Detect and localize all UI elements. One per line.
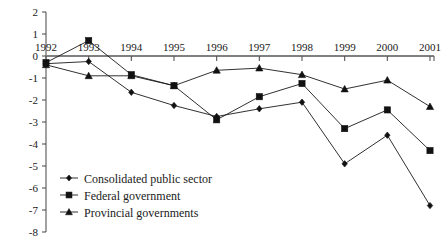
data-series [42, 61, 433, 109]
y-axis-tick-label: -2 [29, 94, 38, 106]
x-axis-tick-label: 2000 [376, 41, 399, 53]
chart-page: 210-1-2-3-4-5-6-7-8 19921993199419951996… [0, 0, 445, 248]
y-axis-tick-label: -7 [29, 204, 39, 216]
x-axis-tick-label: 1999 [334, 41, 357, 53]
series-polyline [46, 65, 430, 107]
marker-square [427, 148, 433, 154]
y-axis-tick-label: -4 [29, 138, 39, 150]
x-axis-tick-label: 1998 [291, 41, 314, 53]
marker-diamond [171, 102, 176, 108]
marker-triangle [384, 77, 391, 83]
x-axis-tick-label: 1995 [163, 41, 186, 53]
y-axis-tick-label: 2 [33, 6, 39, 18]
legend-item-label: Federal government [84, 189, 181, 203]
marker-diamond [66, 175, 71, 181]
legend-item[interactable]: Consolidated public sector [60, 172, 212, 186]
marker-triangle [256, 65, 263, 71]
marker-diamond [129, 89, 134, 95]
y-axis-tick-label: -3 [29, 116, 39, 128]
marker-diamond [257, 106, 262, 112]
y-axis-tick-label: -6 [29, 182, 39, 194]
marker-square [384, 107, 390, 113]
x-axis-tick-label: 1997 [248, 41, 271, 53]
data-series [43, 58, 432, 209]
marker-diamond [385, 132, 390, 138]
legend-item[interactable]: Federal government [60, 189, 181, 203]
marker-triangle [426, 103, 433, 109]
x-axis-tick-label: 1996 [206, 41, 229, 53]
chart-legend: Consolidated public sectorFederal govern… [60, 172, 212, 220]
x-axis-tick-label: 2001 [419, 41, 441, 53]
legend-item-label: Consolidated public sector [84, 172, 212, 186]
marker-square [342, 126, 348, 132]
x-axis-tick-label: 1994 [120, 41, 143, 53]
marker-diamond [427, 202, 432, 208]
marker-square [86, 38, 92, 44]
marker-square [66, 192, 72, 198]
x-axis: 1992199319941995199619971998199920002001 [35, 41, 441, 61]
legend-item-label: Provincial governments [84, 206, 199, 220]
y-axis-tick-label: 1 [33, 28, 39, 40]
y-axis-tick-label: -8 [29, 226, 39, 238]
legend-item[interactable]: Provincial governments [60, 206, 199, 220]
marker-diamond [86, 58, 91, 64]
marker-square [256, 94, 262, 100]
y-axis-tick-label: -5 [29, 160, 39, 172]
marker-square [214, 117, 220, 123]
line-chart: 210-1-2-3-4-5-6-7-8 19921993199419951996… [0, 0, 445, 248]
y-axis-tick-label: -1 [29, 72, 38, 84]
x-axis-tick-label: 1992 [35, 41, 57, 53]
marker-square [299, 80, 305, 86]
